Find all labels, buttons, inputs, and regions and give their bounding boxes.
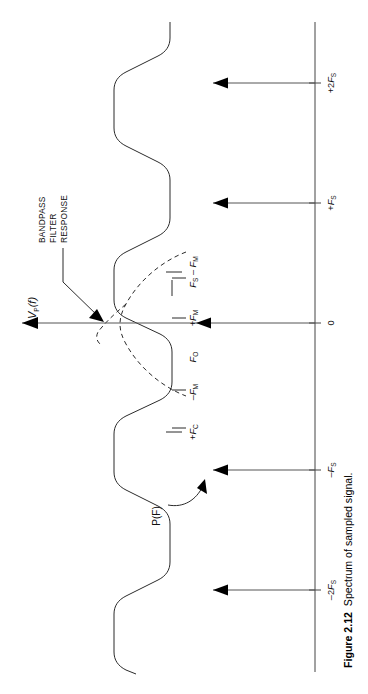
svg-text:+2FS: +2FS: [326, 72, 337, 93]
pf-label: P(F): [151, 506, 162, 525]
pf-label-text: P(F): [151, 506, 162, 525]
tick-prefix-plus-2fs: +2: [326, 83, 336, 93]
impulse-arrow-plus-fs: [213, 198, 315, 209]
figure-container: +2FS +FS 0 –FS –2FS FS – FM: [0, 0, 368, 694]
origin-label: 0: [326, 320, 336, 325]
svg-text:FS – FM: FS – FM: [188, 256, 199, 287]
axis-tick-label-zero: 0: [326, 320, 336, 325]
marker-fs-sub2: M: [192, 256, 199, 262]
marker-plusfm-sub: M: [192, 310, 199, 316]
marker-fo-sub: O: [192, 352, 199, 357]
band-edge-drop-lines: [166, 272, 186, 432]
axis-tick-label-plus-fs: +FS: [326, 195, 337, 211]
vpf-arg: (f): [26, 297, 38, 308]
marker-label-minus-fm: –FM: [188, 384, 199, 400]
caption-number: Figure 2.12: [342, 612, 354, 668]
marker-fs-mid: –: [188, 267, 198, 277]
svg-text:Figure 2.12 Spectrum of sampl: Figure 2.12 Spectrum of sampled signal.: [342, 473, 354, 669]
impulse-arrow-minus-2fs: [213, 585, 315, 596]
impulse-arrow-minus-fs: [213, 465, 315, 476]
svg-text:FO: FO: [188, 352, 199, 363]
impulse-arrow-zero: [196, 318, 315, 329]
svg-text:+FM: +FM: [188, 310, 199, 327]
marker-label-fo: FO: [188, 352, 199, 363]
bandpass-callout-leader: [63, 248, 104, 322]
marker-label-plus-fm: +FM: [188, 310, 199, 327]
pf-callout-leader: [168, 479, 207, 506]
axis-tick-label-plus-2fs: +2FS: [326, 72, 337, 93]
callout-line-2: FILTER: [48, 214, 58, 243]
svg-text:VP(f): VP(f): [26, 297, 40, 319]
tick-sub-minus-fs: S: [330, 462, 337, 467]
vpf-label: VP(f): [26, 297, 40, 319]
callout-line-3: RESPONSE: [59, 195, 69, 243]
callout-line-1: BANDPASS: [37, 196, 47, 243]
bandpass-callout-text: BANDPASS FILTER RESPONSE: [37, 195, 69, 243]
spectrum-figure-svg: +2FS +FS 0 –FS –2FS FS – FM: [0, 0, 368, 694]
tick-sub-plus-2fs: S: [330, 72, 337, 77]
axis-tick-label-minus-2fs: –2FS: [326, 579, 337, 600]
tick-sub-minus-2fs: S: [330, 579, 337, 584]
marker-minusfm-sub: M: [192, 384, 199, 390]
svg-text:–FS: –FS: [326, 462, 337, 478]
tick-sub-plus-fs: S: [330, 195, 337, 200]
tick-prefix-minus-2fs: –2: [326, 590, 336, 600]
svg-text:+FC: +FC: [188, 424, 199, 440]
sampled-spectrum-curve: [114, 22, 172, 674]
impulse-arrow-plus-2fs: [213, 78, 315, 89]
vpf-pointer-arrow: [22, 317, 196, 329]
marker-label-plus-fc: +FC: [188, 424, 199, 440]
svg-text:–FM: –FM: [188, 384, 199, 400]
axis-tick-label-minus-fs: –FS: [326, 462, 337, 478]
bandpass-filter-response-curve: [97, 252, 186, 396]
svg-text:–2FS: –2FS: [326, 579, 337, 600]
svg-text:+FS: +FS: [326, 195, 337, 211]
marker-plusfc-sub: C: [192, 424, 199, 429]
marker-label-fs-minus-fm: FS – FM: [188, 256, 199, 287]
figure-caption: Figure 2.12 Spectrum of sampled signal.: [342, 473, 354, 669]
caption-text: Spectrum of sampled signal.: [342, 473, 354, 607]
